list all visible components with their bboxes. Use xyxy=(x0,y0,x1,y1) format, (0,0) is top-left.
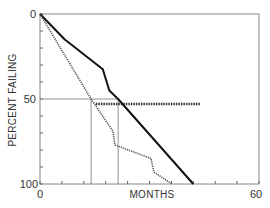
x-tick-label-60: 60 xyxy=(250,188,262,200)
x-axis-label: MONTHS xyxy=(129,189,174,200)
annotations xyxy=(40,99,200,184)
y-tick-label-0: 0 xyxy=(30,8,36,20)
survival-chart: 0 50 100 0 60 MONTHS PERCENT FAILING xyxy=(0,0,270,208)
y-tick-label-50: 50 xyxy=(24,93,36,105)
y-tick-label-100: 100 xyxy=(20,178,38,190)
y-axis-label: PERCENT FAILING xyxy=(7,53,18,146)
x-tick-label-0: 0 xyxy=(37,188,43,200)
